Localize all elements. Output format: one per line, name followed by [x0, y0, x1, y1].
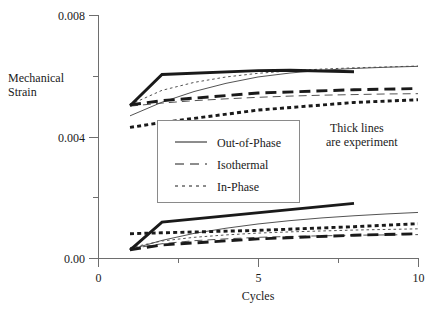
y-axis-title-line2: Strain — [8, 85, 37, 99]
series-line — [130, 70, 354, 106]
y-tick-label: 0.00 — [64, 252, 85, 266]
annotation-line2: are experiment — [326, 135, 398, 149]
y-axis-title-line1: Mechanical — [8, 71, 65, 85]
legend-label: Isothermal — [217, 158, 269, 172]
annotation-line1: Thick lines — [330, 121, 384, 135]
series-line — [130, 224, 418, 234]
x-tick-label: 0 — [96, 271, 102, 285]
y-tick-label: 0.008 — [58, 9, 85, 23]
x-tick-label: 10 — [413, 271, 425, 285]
legend-label: Out-of-Phase — [217, 136, 281, 150]
chart-legend: Out-of-PhaseIsothermalIn-Phase — [158, 121, 300, 203]
chart-container: 0.000.0040.0080510 Out-of-PhaseIsotherma… — [0, 0, 433, 317]
y-tick-label: 0.004 — [58, 131, 85, 145]
series-line — [130, 235, 418, 249]
strain-vs-cycles-chart: 0.000.0040.0080510 Out-of-PhaseIsotherma… — [0, 0, 433, 317]
x-axis-title: Cycles — [242, 289, 275, 303]
series-line — [130, 234, 418, 250]
x-tick-label: 5 — [256, 271, 262, 285]
legend-label: In-Phase — [217, 180, 259, 194]
